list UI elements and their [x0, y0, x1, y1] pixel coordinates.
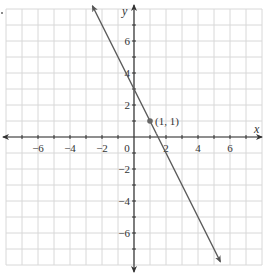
axes — [3, 5, 262, 272]
y-axis-label: y — [121, 4, 128, 18]
x-axis-label: x — [253, 122, 260, 136]
svg-text:−2: −2 — [96, 142, 108, 154]
svg-text:4: 4 — [195, 142, 201, 154]
svg-text:6: 6 — [227, 142, 233, 154]
svg-text:6: 6 — [125, 35, 131, 47]
svg-text:−4: −4 — [118, 195, 130, 207]
svg-text:−6: −6 — [32, 142, 44, 154]
svg-text:−6: −6 — [118, 227, 130, 239]
svg-text:0: 0 — [124, 142, 130, 154]
plot-line — [92, 6, 220, 262]
svg-text:2: 2 — [125, 99, 131, 111]
svg-text:−2: −2 — [118, 163, 130, 175]
svg-text:−4: −4 — [64, 142, 76, 154]
coordinate-plane: −6−4−20246−6−4−2246 x y (1, 1) — [0, 0, 265, 279]
corner-dot — [1, 12, 3, 14]
svg-text:(1, 1): (1, 1) — [155, 115, 179, 128]
